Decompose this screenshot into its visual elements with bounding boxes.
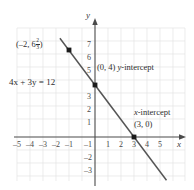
x-tick-label: –4 bbox=[26, 141, 34, 149]
y-tick-label: 3 bbox=[87, 93, 91, 101]
x-tick-label: –1 bbox=[65, 141, 73, 149]
y-tick-label: 2 bbox=[87, 106, 91, 114]
y-intercept-suffix: -intercept bbox=[121, 62, 154, 72]
point-marker-a bbox=[67, 48, 72, 53]
y-tick-label: –1 bbox=[84, 141, 92, 149]
y-tick-label: –3 bbox=[84, 167, 92, 175]
y-axis-label: y bbox=[86, 11, 90, 20]
equation-label: 4x + 3y = 12 bbox=[9, 78, 55, 87]
y-tick-label: 7 bbox=[87, 41, 91, 49]
point-label-minus2: (–2, 623) bbox=[16, 38, 42, 50]
coordinate-plane bbox=[0, 0, 194, 190]
x-axis-label: x bbox=[177, 140, 181, 149]
y-tick-label: 1 bbox=[87, 119, 91, 127]
x-tick-label: 5 bbox=[158, 141, 162, 149]
x-tick-label: 1 bbox=[106, 141, 110, 149]
y-tick-label: 6 bbox=[87, 54, 91, 62]
point-marker-y-intercept bbox=[93, 83, 98, 88]
y-tick-label: 5 bbox=[87, 67, 91, 75]
point-marker-x-intercept bbox=[132, 135, 137, 140]
point-label-close: ) bbox=[40, 39, 43, 49]
x-tick-label: –5 bbox=[13, 141, 21, 149]
x-intercept-suffix: -intercept bbox=[138, 107, 171, 117]
x-intercept-coords: (3, 0) bbox=[134, 120, 152, 129]
x-tick-label: –3 bbox=[39, 141, 47, 149]
y-axis bbox=[92, 18, 97, 186]
x-intercept-label: x-intercept bbox=[134, 108, 170, 117]
point-label-open: (–2, 6 bbox=[16, 39, 36, 49]
x-tick-label: 3 bbox=[132, 141, 136, 149]
y-intercept-coords: (0, 4) bbox=[97, 62, 118, 72]
x-tick-label: –2 bbox=[52, 141, 60, 149]
y-tick-label: –2 bbox=[84, 154, 92, 162]
graph-figure: y x –5 –4 –3 –2 –1 1 2 3 4 5 7 6 5 3 2 1… bbox=[0, 0, 194, 190]
x-tick-label: 2 bbox=[119, 141, 123, 149]
y-intercept-label: (0, 4) y-intercept bbox=[97, 63, 154, 72]
x-tick-label: 4 bbox=[145, 141, 149, 149]
grid-lines bbox=[17, 28, 185, 181]
